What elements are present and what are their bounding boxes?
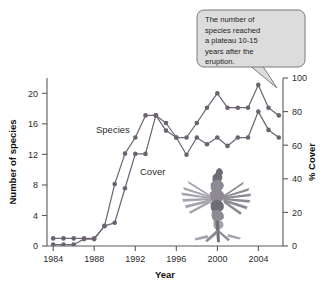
series-species [51, 83, 281, 241]
y-axis-right-ticklabels: 0 20 40 60 80 100 [292, 73, 307, 251]
y-ticklabel-4: 4 [33, 211, 38, 221]
series-label-cover: Cover [140, 166, 165, 177]
y-axis-title-left: Number of species [7, 120, 18, 205]
y-axis-title-right: % Cover [306, 143, 317, 181]
y-ticklabel-16: 16 [28, 119, 38, 129]
lupine-plant-illustration [181, 168, 251, 242]
x-ticklabel-2000: 2000 [207, 254, 227, 264]
callout-line-3: a plateau 10-15 [205, 36, 258, 45]
y2-ticklabel-80: 80 [292, 107, 302, 117]
x-axis-ticklabels: 1984 1988 1992 1996 2000 2004 [43, 254, 268, 264]
x-axis-title: Year [155, 269, 175, 280]
y-ticklabel-8: 8 [33, 180, 38, 190]
callout-line-5: eruption. [205, 57, 235, 66]
y2-ticklabel-100: 100 [292, 73, 307, 83]
y-axis-left-ticklabels: 0 4 8 12 16 20 [28, 89, 38, 252]
series-label-species: Species [96, 124, 130, 135]
y-axis-left-ticks [42, 93, 47, 246]
y-ticklabel-0: 0 [33, 241, 38, 251]
y2-ticklabel-40: 40 [292, 174, 302, 184]
chart-svg: 0 4 8 12 16 20 0 20 40 60 80 100 [0, 0, 323, 287]
series-cover [51, 109, 281, 247]
y-ticklabel-12: 12 [28, 150, 38, 160]
y-ticklabel-20: 20 [28, 89, 38, 99]
series-species-markers [51, 83, 281, 241]
x-axis-ticks [53, 246, 258, 251]
x-ticklabel-1992: 1992 [125, 254, 145, 264]
callout-line-1: The number of [205, 15, 255, 24]
y-axis-right-ticks [283, 78, 288, 246]
x-ticklabel-2004: 2004 [248, 254, 268, 264]
figure-container: 0 4 8 12 16 20 0 20 40 60 80 100 [0, 0, 323, 287]
y2-ticklabel-20: 20 [292, 208, 302, 218]
annotation-callout: The number of species reached a plateau … [197, 10, 305, 88]
callout-line-2: species reached [205, 26, 260, 35]
y2-ticklabel-60: 60 [292, 141, 302, 151]
x-ticklabel-1996: 1996 [166, 254, 186, 264]
series-species-line [53, 85, 279, 239]
callout-line-4: years after the [205, 47, 254, 56]
x-ticklabel-1984: 1984 [43, 254, 63, 264]
x-ticklabel-1988: 1988 [84, 254, 104, 264]
y2-ticklabel-0: 0 [292, 241, 297, 251]
series-cover-markers [51, 109, 281, 247]
